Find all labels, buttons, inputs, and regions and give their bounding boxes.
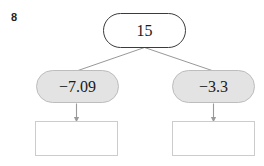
answer-box-left[interactable] [35, 121, 118, 156]
answer-box-right[interactable] [172, 121, 255, 156]
branch-line-right [145, 48, 213, 71]
child-node-right: −3.3 [172, 70, 255, 103]
branch-line-left [78, 48, 145, 71]
root-node: 15 [103, 13, 186, 48]
child-node-right-value: −3.3 [199, 79, 228, 95]
worksheet-canvas: 8 15 −7.09 −3.3 [0, 0, 264, 166]
child-node-left: −7.09 [36, 70, 119, 103]
root-node-value: 15 [137, 23, 153, 39]
problem-number: 8 [11, 12, 17, 23]
child-node-left-value: −7.09 [59, 79, 96, 95]
